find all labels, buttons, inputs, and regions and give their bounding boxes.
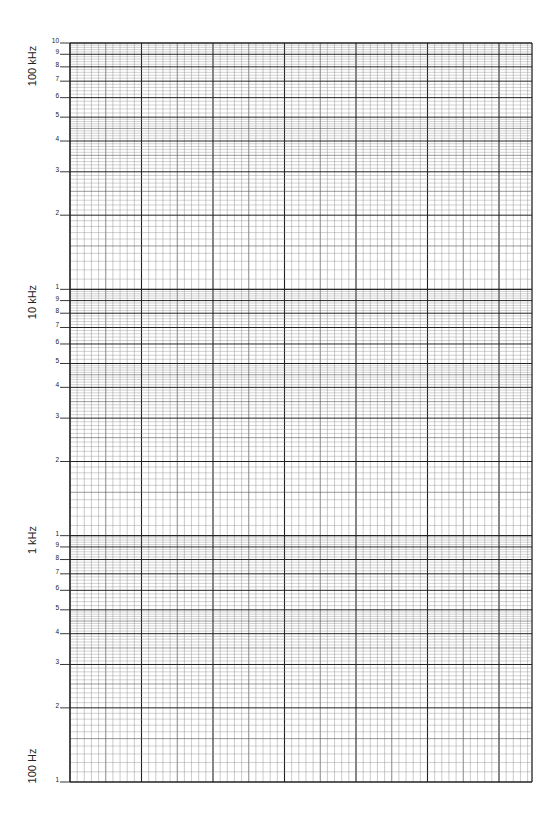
- tick-label: 8: [45, 554, 59, 562]
- tick-label: 5: [45, 111, 59, 119]
- tick-label: 7: [45, 75, 59, 83]
- tick-label: 3: [45, 412, 59, 420]
- tick-label: 7: [45, 321, 59, 329]
- tick-label: 5: [45, 357, 59, 365]
- tick-label: 9: [45, 295, 59, 303]
- tick-label: 3: [45, 166, 59, 174]
- tick-label: 4: [45, 628, 59, 636]
- tick-label: 5: [45, 604, 59, 612]
- tick-label: 2: [45, 702, 59, 710]
- decade-label-100khz: 100 kHz: [25, 36, 39, 96]
- decade-label-100hz: 100 Hz: [25, 736, 39, 796]
- tick-label: 6: [45, 584, 59, 592]
- tick-label: 3: [45, 658, 59, 666]
- tick-label: 2: [45, 456, 59, 464]
- tick-label: 8: [45, 61, 59, 69]
- tick-label: 1: [45, 283, 59, 291]
- tick-label: 9: [45, 48, 59, 56]
- decade-label-1khz: 1 kHz: [25, 510, 39, 570]
- semilog-graph-paper: [0, 0, 555, 822]
- tick-label: 7: [45, 568, 59, 576]
- tick-label: 1: [45, 530, 59, 538]
- tick-label: 9: [45, 541, 59, 549]
- tick-label: 6: [45, 92, 59, 100]
- tick-label: 8: [45, 307, 59, 315]
- tick-label: 4: [45, 381, 59, 389]
- tick-label: 2: [45, 209, 59, 217]
- tick-label: 1: [45, 776, 59, 784]
- tick-label-top: 10: [45, 37, 59, 45]
- decade-label-10khz: 10 kHz: [25, 272, 39, 332]
- tick-label: 4: [45, 135, 59, 143]
- tick-label: 6: [45, 338, 59, 346]
